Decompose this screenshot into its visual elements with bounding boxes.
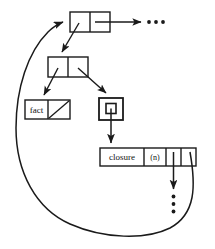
closure-record: closure (n) xyxy=(100,148,196,166)
edge-frame-cdr-to-boxed xyxy=(78,68,106,93)
ellipsis-dot xyxy=(147,20,151,24)
env-cons-cell-frame xyxy=(48,57,88,77)
top-right-ellipsis xyxy=(147,20,165,24)
closure-params-label: (n) xyxy=(150,153,160,162)
bottom-right-ellipsis xyxy=(172,195,176,214)
binding-name-label: fact xyxy=(30,105,44,115)
closure-tag-label: closure xyxy=(109,152,135,162)
diagram-canvas: fact closure (n) xyxy=(0,0,215,249)
binding-pair-fact: fact xyxy=(25,100,70,119)
ellipsis-dot xyxy=(161,20,165,24)
closure-environment-diagram: fact closure (n) xyxy=(0,0,215,249)
ellipsis-dot xyxy=(154,20,158,24)
edge-closure-env-back-to-top xyxy=(16,22,193,236)
ellipsis-dot xyxy=(172,210,176,214)
ellipsis-dot xyxy=(172,202,176,206)
ellipsis-dot xyxy=(172,195,176,199)
